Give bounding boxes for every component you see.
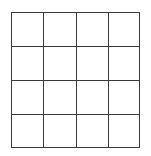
grid-row-divider-1 bbox=[12, 46, 139, 47]
grid-4x4 bbox=[11, 12, 140, 148]
grid-row-divider-3 bbox=[12, 114, 139, 115]
grid-row-divider-2 bbox=[12, 80, 139, 81]
